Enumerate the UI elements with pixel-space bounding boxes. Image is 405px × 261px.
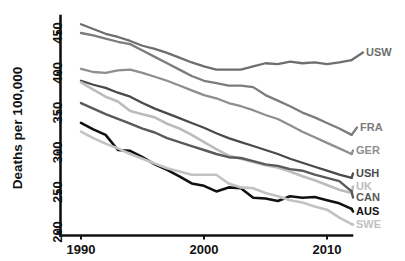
series-label-leader-usw (352, 53, 363, 61)
series-label-ger: GER (356, 144, 380, 156)
line-chart: 200250300350400450 199020002010 Deaths p… (0, 0, 405, 261)
y-tick-label: 200 (50, 221, 65, 243)
series-label-leader-aus (352, 209, 353, 212)
series-label-leader-can (352, 191, 353, 197)
axes (61, 16, 353, 236)
series-label-leader-ger (352, 151, 353, 154)
series-line-usw (81, 24, 352, 69)
y-tick-label: 350 (50, 102, 65, 124)
x-axis-tick-labels: 199020002010 (67, 242, 342, 257)
series-line-ush (81, 81, 352, 178)
x-tick-label: 1990 (67, 242, 96, 257)
series-label-leader-fra (352, 128, 357, 135)
y-axis-title: Deaths per 100,000 (10, 67, 25, 189)
series-label-ush: USH (356, 167, 379, 179)
series-label-fra: FRA (360, 121, 383, 133)
series-label-swe: SWE (356, 218, 381, 230)
series-label-aus: AUS (356, 205, 379, 217)
y-tick-label: 400 (50, 62, 65, 84)
series-label-leader-ush (352, 174, 353, 178)
y-axis-tick-labels: 200250300350400450 (50, 22, 65, 243)
y-tick-label: 450 (50, 22, 65, 44)
chart-canvas: 200250300350400450 199020002010 Deaths p… (0, 0, 405, 261)
series-labels: USWFRAGERUSHUKCANAUSSWE (356, 46, 392, 230)
series-label-usw: USW (366, 46, 392, 58)
y-tick-label: 300 (50, 142, 65, 164)
x-tick-label: 2000 (190, 242, 219, 257)
series-lines (81, 24, 363, 224)
y-tick-label: 250 (50, 181, 65, 203)
series-label-can: CAN (356, 191, 380, 203)
cropped-caption-remnant (0, 0, 405, 2)
x-tick-label: 2010 (313, 242, 342, 257)
y-axis-title-text: Deaths per 100,000 (10, 67, 25, 189)
series-line-ger (81, 69, 352, 154)
